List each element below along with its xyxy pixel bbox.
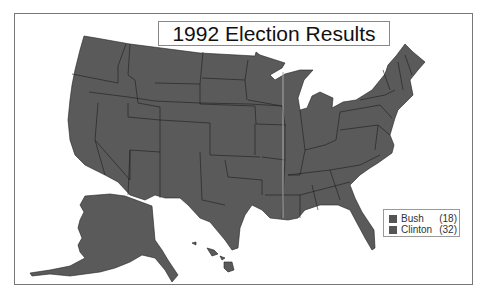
legend-count: (32) <box>439 224 457 235</box>
legend-count: (18) <box>439 213 457 224</box>
hawaii-shape <box>192 242 234 272</box>
legend-item-bush: Bush (18) <box>389 213 457 224</box>
legend: Bush (18) Clinton (32) <box>383 209 460 237</box>
alaska-shape <box>30 194 178 282</box>
map-title: 1992 Election Results <box>158 21 390 46</box>
legend-label: Clinton <box>401 224 439 235</box>
bush-swatch <box>389 215 397 223</box>
clinton-swatch <box>389 226 397 234</box>
legend-item-clinton: Clinton (32) <box>389 224 457 235</box>
legend-label: Bush <box>401 213 439 224</box>
